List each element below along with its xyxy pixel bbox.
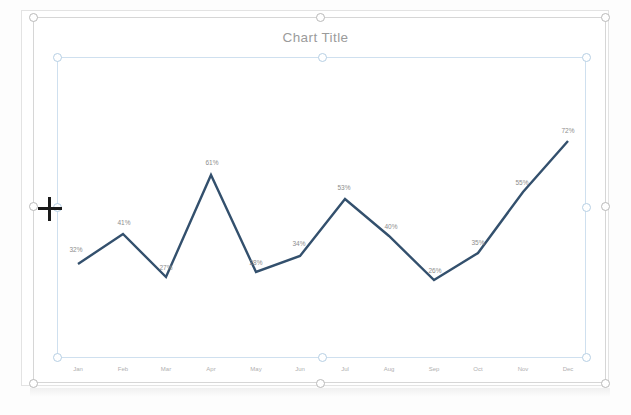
category-label-aug: Aug (384, 366, 395, 372)
slide-canvas[interactable]: Chart Title 32%41%27%61%28%34%53%40%26%3… (0, 0, 631, 415)
series-1-line[interactable] (78, 141, 568, 280)
category-label-jul: Jul (341, 366, 349, 372)
plot-handle-middle-left[interactable] (53, 203, 62, 212)
plot-handle-top-center[interactable] (318, 53, 327, 62)
plot-handle-bottom-right[interactable] (582, 353, 591, 362)
plot-handle-top-left[interactable] (53, 53, 62, 62)
data-label-jul: 53% (337, 184, 350, 191)
handle-bottom-right[interactable] (601, 379, 610, 388)
data-label-mar: 27% (159, 264, 172, 271)
plot-handle-bottom-left[interactable] (53, 353, 62, 362)
handle-bottom-center[interactable] (316, 379, 325, 388)
data-label-jan: 32% (69, 246, 82, 253)
category-label-nov: Nov (518, 366, 529, 372)
plot-handle-middle-right[interactable] (582, 203, 591, 212)
category-label-sep: Sep (429, 366, 440, 372)
data-label-sep: 26% (428, 267, 441, 274)
data-label-dec: 72% (561, 127, 574, 134)
data-label-aug: 40% (384, 223, 397, 230)
category-label-apr: Apr (206, 366, 215, 372)
category-label-may: May (250, 366, 261, 372)
category-label-jan: Jan (73, 366, 83, 372)
handle-top-right[interactable] (601, 13, 610, 22)
plot-handle-top-right[interactable] (582, 53, 591, 62)
data-label-may: 28% (249, 259, 262, 266)
handle-top-center[interactable] (316, 13, 325, 22)
category-label-mar: Mar (161, 366, 171, 372)
data-label-apr: 61% (205, 159, 218, 166)
handle-middle-right[interactable] (601, 202, 610, 211)
data-label-jun: 34% (292, 240, 305, 247)
handle-top-left[interactable] (29, 13, 38, 22)
category-label-oct: Oct (473, 366, 482, 372)
handle-bottom-left[interactable] (29, 379, 38, 388)
line-chart-graphic[interactable] (0, 0, 631, 415)
category-label-jun: Jun (295, 366, 305, 372)
data-label-nov: 55% (515, 179, 528, 186)
plot-handle-bottom-center[interactable] (318, 353, 327, 362)
handle-middle-left[interactable] (29, 202, 38, 211)
category-label-feb: Feb (118, 366, 128, 372)
category-label-dec: Dec (563, 366, 574, 372)
data-label-oct: 35% (471, 239, 484, 246)
chart-title[interactable]: Chart Title (0, 30, 631, 45)
data-label-feb: 41% (117, 219, 130, 226)
